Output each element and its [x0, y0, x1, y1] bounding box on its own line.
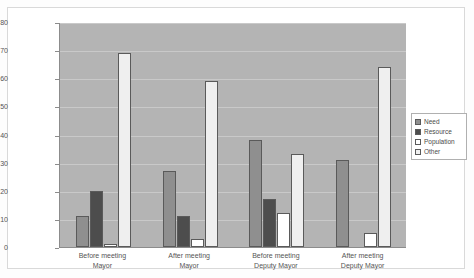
gridline-0	[60, 247, 406, 248]
y-tick-label-20: 20	[0, 188, 8, 195]
bar-resource	[90, 191, 103, 247]
x-axis-label-line: Mayor	[59, 261, 146, 271]
legend-item-population[interactable]: Population	[415, 137, 463, 146]
x-axis-label-line: After meeting	[319, 251, 406, 261]
y-tick-label-70: 70	[0, 47, 8, 54]
y-tick-label-50: 50	[0, 103, 8, 110]
y-tick-label-10: 10	[0, 216, 8, 223]
x-axis-label-line: Before meeting	[233, 251, 320, 261]
bar-resource	[177, 216, 190, 247]
legend-item-need[interactable]: Need	[415, 117, 463, 126]
legend-swatch-icon	[415, 129, 421, 135]
legend-label: Need	[424, 118, 440, 125]
x-axis-label: After meetingDeputy Mayor	[319, 251, 406, 270]
bar-resource	[263, 199, 276, 247]
y-tick-label-60: 60	[0, 75, 8, 82]
bar-need	[76, 216, 89, 247]
legend-label: Resource	[424, 128, 452, 135]
x-axis-label-line: Deputy Mayor	[319, 261, 406, 271]
legend-item-other[interactable]: Other	[415, 147, 463, 156]
chart-canvas: 01020304050607080 Before meetingMayorAft…	[0, 0, 474, 278]
bar-other	[291, 154, 304, 247]
chart-legend: NeedResourcePopulationOther	[411, 113, 467, 160]
x-axis-label: After meetingMayor	[146, 251, 233, 270]
x-axis-label-line: Mayor	[146, 261, 233, 271]
bar-group	[320, 23, 407, 247]
y-axis: 01020304050607080	[8, 8, 59, 249]
y-tick-label-30: 30	[0, 160, 8, 167]
plot-area	[59, 23, 406, 248]
y-tick-label-80: 80	[0, 19, 8, 26]
legend-label: Population	[424, 138, 455, 145]
bar-need	[336, 160, 349, 247]
x-axis-label-line: Deputy Mayor	[233, 261, 320, 271]
bar-series-container	[60, 23, 406, 247]
legend-swatch-icon	[415, 149, 421, 155]
y-tick-label-0: 0	[0, 244, 8, 251]
y-tick-label-40: 40	[0, 132, 8, 139]
bar-population	[191, 239, 204, 247]
bar-need	[163, 171, 176, 247]
legend-label: Other	[424, 148, 440, 155]
legend-item-resource[interactable]: Resource	[415, 127, 463, 136]
legend-swatch-icon	[415, 139, 421, 145]
x-axis-labels: Before meetingMayorAfter meetingMayorBef…	[59, 251, 406, 277]
bar-other	[205, 81, 218, 247]
bar-need	[249, 140, 262, 247]
x-axis-label: Before meetingMayor	[59, 251, 146, 270]
legend-swatch-icon	[415, 119, 421, 125]
bar-other	[118, 53, 131, 247]
bar-population	[104, 244, 117, 247]
bar-population	[277, 213, 290, 247]
chart-frame: 01020304050607080 Before meetingMayorAft…	[7, 7, 465, 269]
x-axis-label: Before meetingDeputy Mayor	[233, 251, 320, 270]
y-tick-mark-0	[55, 248, 59, 249]
bar-other	[378, 67, 391, 247]
x-axis-label-line: After meeting	[146, 251, 233, 261]
x-axis-label-line: Before meeting	[59, 251, 146, 261]
bar-group	[147, 23, 234, 247]
bar-population	[364, 233, 377, 247]
bar-group	[60, 23, 147, 247]
bar-group	[234, 23, 321, 247]
